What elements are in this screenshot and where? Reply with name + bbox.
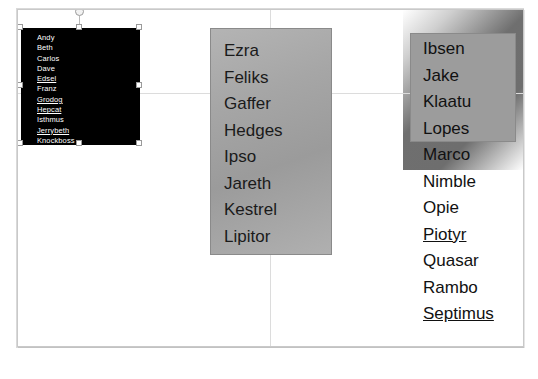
list-item: Piotyr (423, 222, 494, 249)
list-item: Lipitor (224, 224, 331, 251)
rotation-stem (79, 16, 80, 28)
middle-box-list: Ezra Feliks Gaffer Hedges Ipso Jareth Ke… (211, 29, 331, 250)
list-item: Nimble (423, 169, 494, 196)
list-item: Jake (423, 63, 494, 90)
list-item: Gaffer (224, 91, 331, 118)
list-item: Jareth (224, 171, 331, 198)
list-item: Isthmus (37, 115, 140, 125)
rotate-handle-icon[interactable] (75, 9, 84, 16)
list-item: Ipso (224, 144, 331, 171)
list-item: Grodog (37, 95, 140, 105)
list-item: Carlos (37, 54, 140, 64)
list-item: Ezra (224, 38, 331, 65)
slide-canvas[interactable]: Ibsen Jake Klaatu Lopes Marco Nimble Opi… (17, 9, 524, 347)
list-item: Marco (423, 142, 494, 169)
black-text-box[interactable]: Andy Beth Carlos Dave Edsel Franz Grodog… (21, 28, 140, 145)
list-item: Klaatu (423, 89, 494, 116)
list-item: Hepcat (37, 105, 140, 115)
list-item: Ibsen (423, 36, 494, 63)
right-text-list[interactable]: Ibsen Jake Klaatu Lopes Marco Nimble Opi… (423, 36, 494, 328)
list-item: Beth (37, 43, 140, 53)
list-item: Septimus (423, 301, 494, 328)
list-item: Jerrybeth (37, 126, 140, 136)
list-item: Feliks (224, 65, 331, 92)
list-item: Opie (423, 195, 494, 222)
list-item: Dave (37, 64, 140, 74)
list-item: Quasar (423, 248, 494, 275)
black-box-list: Andy Beth Carlos Dave Edsel Franz Grodog… (21, 28, 140, 146)
screenshot-root: Ibsen Jake Klaatu Lopes Marco Nimble Opi… (0, 0, 538, 379)
middle-gradient-box[interactable]: Ezra Feliks Gaffer Hedges Ipso Jareth Ke… (210, 28, 332, 255)
list-item: Edsel (37, 74, 140, 84)
list-item: Andy (37, 33, 140, 43)
list-item: Hedges (224, 118, 331, 145)
list-item: Rambo (423, 275, 494, 302)
list-item: Lopes (423, 116, 494, 143)
list-item: Franz (37, 84, 140, 94)
list-item: Kestrel (224, 197, 331, 224)
below-canvas-area (0, 352, 538, 379)
list-item: Knockboss (37, 136, 140, 146)
